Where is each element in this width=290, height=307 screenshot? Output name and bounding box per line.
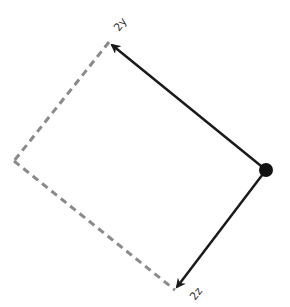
label-2y: 2y xyxy=(111,15,130,34)
origin-point xyxy=(259,163,273,177)
dashed-edge-top xyxy=(14,42,109,161)
vector-2y-arrow xyxy=(112,45,266,170)
dashed-edge-bottom xyxy=(14,161,175,290)
label-2z: 2z xyxy=(187,285,205,303)
vector-diagram: 2y 2z xyxy=(0,0,290,307)
vector-2z-arrow xyxy=(177,170,266,287)
